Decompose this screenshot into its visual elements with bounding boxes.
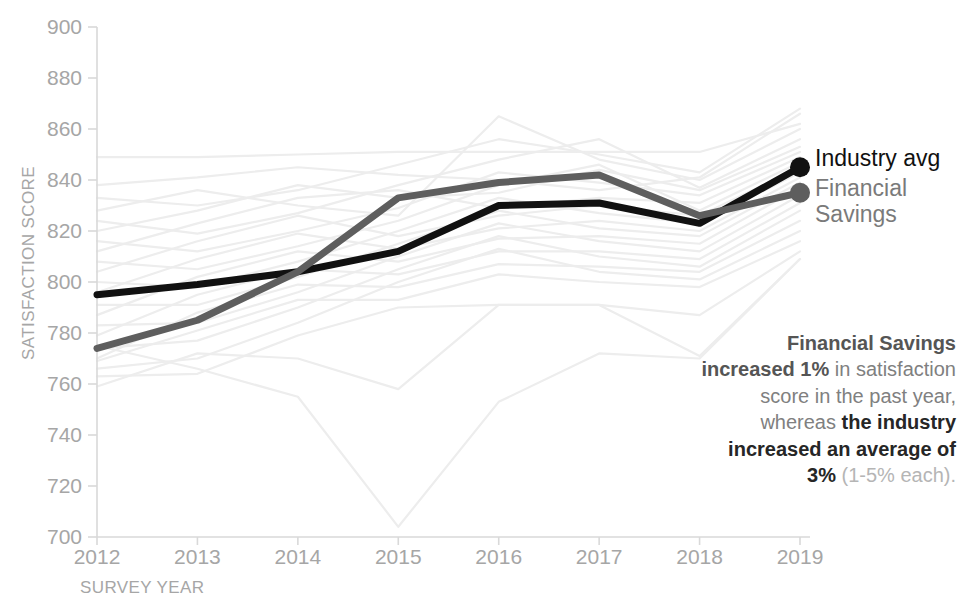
chart-root: SATISFACTION SCORE SURVEY YEAR 900880860…: [0, 0, 964, 610]
legend-label-industry-avg: Industry avg: [815, 146, 940, 172]
series-endpoint-industry-avg: [790, 157, 810, 177]
background-series-line: [97, 116, 800, 215]
legend-label-financial-line2: Savings: [815, 202, 907, 228]
plot-area: [0, 0, 964, 610]
legend-label-financial-savings: Financial Savings: [815, 176, 907, 228]
series-endpoint-financial-savings: [790, 183, 810, 203]
background-series-line: [97, 259, 800, 527]
annotation-text: Financial Savings increased 1% in satisf…: [698, 330, 956, 488]
legend-label-financial-line1: Financial: [815, 176, 907, 202]
annotation-segment-4: (1-5% each).: [836, 464, 956, 486]
